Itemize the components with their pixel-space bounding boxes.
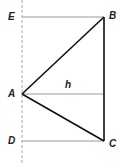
diagram-figure: [0, 0, 120, 164]
label-E: E: [8, 12, 15, 22]
geometry-diagram: E B A h D C: [0, 0, 120, 164]
label-B: B: [109, 11, 116, 21]
label-h: h: [65, 80, 71, 90]
side-AB: [22, 17, 104, 94]
label-D: D: [8, 136, 15, 146]
label-C: C: [109, 139, 116, 149]
side-AC: [22, 94, 104, 141]
label-A: A: [8, 89, 15, 99]
